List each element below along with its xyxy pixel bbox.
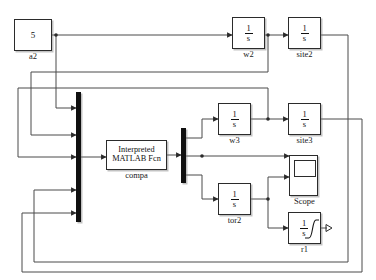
junction-w3: [266, 117, 270, 121]
block-label-w2: w2: [232, 50, 265, 59]
scope-block[interactable]: [289, 155, 318, 196]
transfer-fcn-icon: 1 s: [300, 24, 308, 43]
transfer-fcn-icon: 1 s: [230, 110, 238, 129]
block-label-r1: r1: [288, 245, 321, 254]
constant-value: 5: [31, 30, 36, 40]
wire-demux-to-w3: [186, 119, 218, 138]
saturation-curve-icon: [304, 217, 320, 241]
integrator-denominator: s: [301, 120, 308, 129]
transfer-fcn-icon: 1 s: [300, 110, 308, 129]
transfer-fcn-icon: 1 s: [244, 24, 252, 43]
integrator-block-w2[interactable]: 1 s: [232, 17, 265, 49]
integrator-block-site2[interactable]: 1 s: [288, 17, 321, 49]
constant-block-a2[interactable]: 5: [14, 19, 52, 51]
integrator-denominator: s: [301, 34, 308, 43]
block-label-site3: site3: [283, 136, 326, 145]
interpreted-matlab-fcn-block[interactable]: Interpreted MATLAB Fcn: [106, 140, 167, 170]
integrator-numerator: 1: [230, 110, 238, 119]
integrator-numerator: 1: [300, 24, 308, 33]
block-label-a2: a2: [14, 52, 52, 61]
integrator-denominator: s: [245, 34, 252, 43]
scope-screen-icon: [294, 160, 316, 177]
saturating-integrator-block-r1[interactable]: 1 s: [288, 212, 321, 244]
block-diagram-canvas: 5 a2 1 s w2 1 s site2 1 s w3 1 s: [0, 0, 376, 280]
junction-tor2: [266, 197, 270, 201]
wire-demux-to-tor2: [186, 175, 218, 199]
integrator-numerator: 1: [230, 190, 238, 199]
wire-tor2-to-scope-2: [268, 177, 289, 199]
junction-w2: [266, 33, 270, 37]
integrator-denominator: s: [231, 120, 238, 129]
integrator-numerator: 1: [300, 110, 308, 119]
junction-demux-mid: [200, 154, 204, 158]
block-label-w3: w3: [218, 136, 251, 145]
integrator-block-site3[interactable]: 1 s: [288, 103, 321, 135]
demux-block[interactable]: [181, 128, 186, 183]
block-label-compa: compa: [106, 171, 167, 180]
matlab-fcn-line-2: MATLAB Fcn: [111, 155, 162, 164]
block-label-tor2: tor2: [214, 216, 255, 225]
transfer-fcn-icon: 1 s: [230, 190, 238, 209]
block-label-site2: site2: [283, 50, 326, 59]
junction-a2: [54, 33, 58, 37]
integrator-block-tor2[interactable]: 1 s: [218, 183, 251, 215]
integrator-numerator: 1: [244, 24, 252, 33]
mux-block[interactable]: [76, 92, 81, 222]
integrator-denominator: s: [231, 200, 238, 209]
integrator-block-w3[interactable]: 1 s: [218, 103, 251, 135]
block-label-scope: Scope: [284, 197, 325, 206]
